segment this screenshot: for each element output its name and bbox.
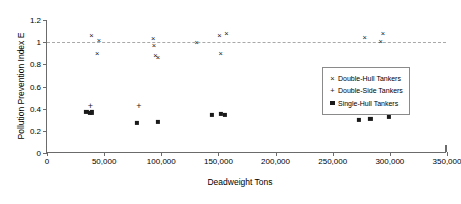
y-tick-label: 0.8 (30, 60, 41, 69)
x-axis-title: Deadweight Tons (30, 177, 450, 187)
data-point: × (156, 54, 160, 62)
legend-item[interactable]: Single-Hull Tankers (327, 97, 404, 110)
x-tick-mark (218, 152, 219, 156)
data-point (135, 121, 139, 125)
x-tick-mark (276, 152, 277, 156)
y-tick-label: 0.6 (30, 82, 41, 91)
x-tick-label: 50,000 (92, 157, 116, 166)
chart-legend: ×Double-Hull Tankers+Double-Side Tankers… (322, 67, 410, 115)
legend-marker-icon: + (327, 85, 338, 96)
x-tick-label: 300,000 (375, 157, 404, 166)
x-tick-mark (447, 152, 448, 156)
legend-item[interactable]: +Double-Side Tankers (327, 85, 404, 98)
y-tick-mark (43, 131, 47, 132)
x-tick-mark (161, 152, 162, 156)
x-tick-mark (390, 152, 391, 156)
data-point: × (152, 42, 156, 50)
data-point: × (219, 50, 223, 58)
data-point: × (95, 50, 99, 58)
y-tick-mark (43, 64, 47, 65)
y-tick-label: 0 (37, 149, 41, 158)
legend-label: Single-Hull Tankers (338, 100, 398, 107)
x-tick-label: 350,000 (433, 157, 461, 166)
y-tick-mark (43, 109, 47, 110)
data-point (90, 110, 94, 114)
data-point (209, 113, 213, 117)
y-tick-label: 1.2 (30, 16, 41, 25)
y-tick-mark (43, 42, 47, 43)
y-tick-label: 0.2 (30, 126, 41, 135)
data-point (387, 114, 391, 118)
data-point: + (136, 102, 141, 111)
y-tick-mark (43, 87, 47, 88)
data-point: × (217, 32, 221, 40)
data-point (357, 118, 361, 122)
data-point (223, 112, 227, 116)
y-tick-label: 1 (37, 38, 41, 47)
data-point: × (379, 39, 383, 47)
legend-marker-icon (327, 98, 338, 109)
reference-line-1 (47, 42, 446, 43)
legend-label: Double-Side Tankers (338, 87, 403, 94)
data-point: × (89, 32, 93, 40)
x-tick-label: 100,000 (147, 157, 176, 166)
x-tick-label: 150,000 (204, 157, 233, 166)
x-tick-label: 200,000 (261, 157, 290, 166)
legend-label: Double-Hull Tankers (338, 75, 401, 82)
data-point (156, 120, 160, 124)
x-tick-mark (104, 152, 105, 156)
data-point: × (363, 35, 367, 43)
y-tick-mark (43, 20, 47, 21)
data-point: × (195, 40, 199, 48)
legend-marker-icon: × (327, 73, 338, 84)
data-point (368, 117, 372, 121)
x-tick-mark (47, 152, 48, 156)
x-tick-mark (333, 152, 334, 156)
data-point: × (224, 30, 228, 38)
y-axis-title: Pollution Prevention Index E (14, 6, 28, 166)
x-tick-label: 250,000 (318, 157, 347, 166)
data-point: × (97, 37, 101, 45)
legend-item[interactable]: ×Double-Hull Tankers (327, 72, 404, 85)
data-point: × (381, 30, 385, 38)
y-tick-label: 0.4 (30, 104, 41, 113)
x-tick-label: 0 (45, 157, 49, 166)
